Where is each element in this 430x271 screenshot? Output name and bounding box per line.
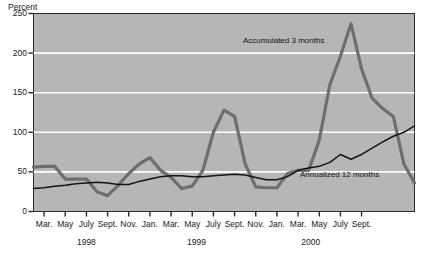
x-axis-tick-label: Sept. — [342, 220, 382, 229]
series-label: Annualized 12 months — [300, 170, 379, 179]
chart-svg — [0, 0, 430, 271]
y-axis-tick-label: 50 — [1, 167, 27, 176]
y-axis-tick-label: 150 — [1, 88, 27, 97]
y-axis-tick-label: 200 — [1, 49, 27, 58]
y-axis-tick-label: 0 — [1, 207, 27, 216]
series-label: Accumulated 3 months — [243, 36, 324, 45]
chart-figure: Percent 050100150200250 Mar.MayJulySept.… — [0, 0, 430, 271]
y-axis-tick-label: 100 — [1, 128, 27, 137]
y-axis-tick-label: 250 — [1, 9, 27, 18]
year-label: 2000 — [281, 238, 341, 247]
year-label: 1999 — [166, 238, 226, 247]
series-line — [34, 126, 415, 189]
year-label: 1998 — [56, 238, 116, 247]
